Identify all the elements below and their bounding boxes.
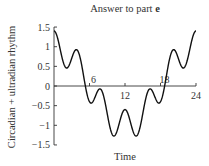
tick-label: 1 xyxy=(45,41,50,52)
tick-label: 24 xyxy=(191,90,201,101)
tick-label: −1 xyxy=(39,120,50,131)
x-axis-label: Time xyxy=(114,151,136,162)
axes xyxy=(54,27,196,145)
tick-label: 0.5 xyxy=(38,61,51,72)
tick-label: −0.5 xyxy=(32,100,50,111)
tick-label: −1.5 xyxy=(32,139,50,150)
tick-label: 0 xyxy=(45,81,50,92)
tick-label: 6 xyxy=(91,74,96,85)
y-axis-label: Circadian + ultradian rhythm xyxy=(6,26,17,148)
chart: Answer to part e Circadian + ultradian r… xyxy=(0,0,209,166)
chart-title: Answer to part e xyxy=(90,3,160,14)
tick-label: 1.5 xyxy=(38,22,51,33)
tick-label: 12 xyxy=(120,90,130,101)
